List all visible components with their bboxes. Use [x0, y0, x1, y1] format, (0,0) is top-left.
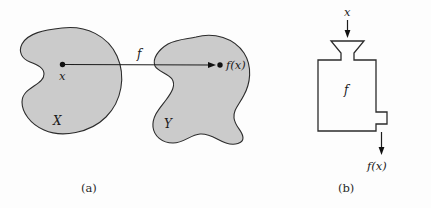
- panel-a-group: x X Y f f(x) (a): [20, 28, 249, 195]
- mapping-arrow-line: [64, 65, 211, 66]
- label-f-map: f: [136, 47, 144, 61]
- label-x-element: x: [59, 69, 66, 83]
- label-fx-output: f(x): [366, 159, 387, 173]
- panel-b-group: x f f(x) (b): [318, 5, 387, 195]
- domain-set-blob-x: [20, 28, 121, 134]
- function-machine-body: [318, 41, 387, 131]
- element-dot-x: [60, 62, 65, 67]
- label-y-set: Y: [164, 117, 173, 131]
- caption-panel-b: (b): [338, 181, 354, 195]
- label-f-machine: f: [343, 83, 351, 97]
- label-x-input: x: [344, 5, 351, 19]
- caption-panel-a: (a): [81, 181, 97, 195]
- figure-canvas: x X Y f f(x) (a) x f f(x) (b): [0, 0, 431, 208]
- output-arrow-head-icon: [379, 147, 385, 155]
- function-figure: x X Y f f(x) (a) x f f(x) (b): [0, 0, 431, 208]
- image-dot-fx: [217, 62, 222, 67]
- label-x-set: X: [52, 114, 62, 128]
- label-fx-image: f(x): [225, 58, 246, 72]
- input-arrow-head-icon: [345, 30, 351, 38]
